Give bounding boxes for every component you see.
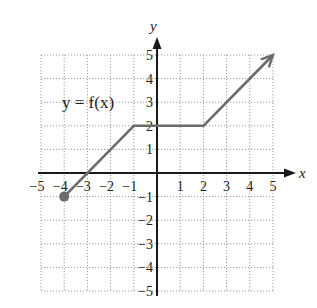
x-axis-arrow-icon (284, 169, 296, 178)
y-tick-label: −5 (138, 284, 153, 299)
y-tick-label: 1 (146, 142, 153, 157)
x-tick-label: 1 (177, 179, 184, 194)
x-tick-label: 4 (246, 179, 253, 194)
closed-endpoint-dot (59, 192, 69, 202)
x-tick-label: −1 (122, 179, 137, 194)
y-axis-label: y (148, 18, 157, 34)
function-label: y = f(x) (62, 93, 114, 112)
function-graph: x y −5−4−3−2−11234554321−1−2−3−4−5 y = f… (0, 0, 317, 308)
y-tick-label: −2 (138, 213, 153, 228)
function-curve (59, 55, 273, 202)
y-tick-label: −4 (138, 260, 153, 275)
x-axis-label: x (298, 165, 306, 181)
x-tick-label: −4 (53, 179, 68, 194)
x-tick-label: 2 (200, 179, 207, 194)
axes: x y (38, 18, 306, 296)
x-tick-label: −2 (99, 179, 114, 194)
y-tick-label: 5 (146, 48, 153, 63)
x-tick-label: 3 (223, 179, 230, 194)
x-tick-label: −5 (30, 179, 45, 194)
y-tick-label: 3 (146, 95, 153, 110)
x-tick-label: 5 (270, 179, 277, 194)
y-axis-arrow-icon (153, 37, 162, 49)
y-tick-label: −1 (138, 190, 153, 205)
y-tick-label: −3 (138, 237, 153, 252)
y-tick-label: 4 (146, 72, 153, 87)
